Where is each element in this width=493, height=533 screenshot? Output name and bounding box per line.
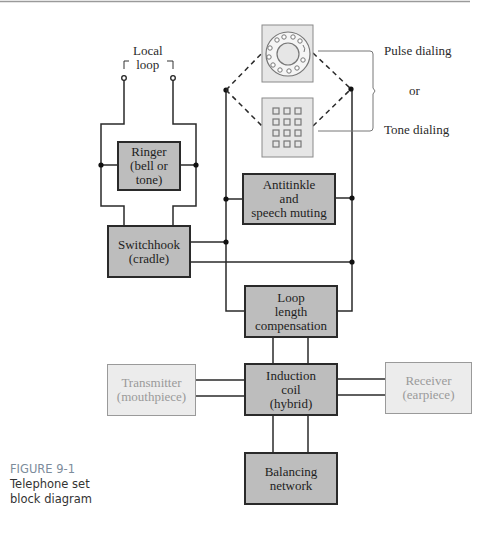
antitinkle-block: Antitinkle and speech muting <box>242 173 336 225</box>
keypad-icon <box>262 98 313 157</box>
loop-length-compensation-block: Loop length compensation <box>244 285 338 338</box>
tone-dialing-label: Tone dialing <box>384 122 449 138</box>
receiver-block: Receiver (earpiece) <box>385 362 472 414</box>
caption-line-1: Telephone set <box>10 477 92 492</box>
pulse-dialing-label: Pulse dialing <box>384 43 452 59</box>
rotary-dial-icon <box>262 25 313 82</box>
local-loop-label: Local loop <box>133 44 163 72</box>
figure-caption: FIGURE 9-1 Telephone set block diagram <box>10 462 92 507</box>
switchhook-block: Switchhook (cradle) <box>107 225 191 278</box>
or-label: or <box>409 83 420 99</box>
balancing-network-block: Balancing network <box>244 452 338 505</box>
figure-number: FIGURE 9-1 <box>10 462 92 477</box>
induction-coil-block: Induction coil (hybrid) <box>244 363 338 416</box>
ringer-block: Ringer (bell or tone) <box>117 141 181 191</box>
caption-line-2: block diagram <box>10 492 92 507</box>
transmitter-block: Transmitter (mouthpiece) <box>107 364 196 416</box>
